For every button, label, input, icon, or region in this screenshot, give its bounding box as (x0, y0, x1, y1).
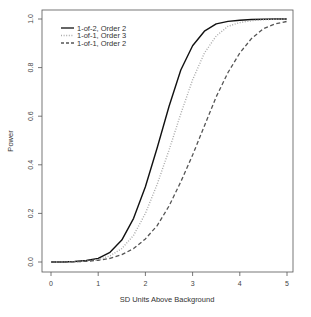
y-tick-label: 0.4 (27, 160, 34, 170)
y-tick-label: 1.0 (27, 14, 34, 24)
x-tick-label: 4 (238, 280, 242, 287)
legend-label: 1-of-1, Order 2 (77, 39, 126, 48)
x-tick-label: 3 (191, 280, 195, 287)
y-tick-label: 0.6 (27, 111, 34, 121)
y-tick-label: 0.2 (27, 208, 34, 218)
y-tick-label: 0.8 (27, 63, 34, 73)
x-tick-label: 2 (143, 280, 147, 287)
power-curve-chart: 012345 0.00.20.40.60.81.0 SD Units Above… (0, 0, 311, 317)
legend: 1-of-2, Order 2 1-of-1, Order 3 1-of-1, … (61, 24, 126, 48)
x-axis-title: SD Units Above Background (120, 295, 215, 304)
x-tick-label: 5 (285, 280, 289, 287)
series-line-solid (51, 19, 287, 262)
series-line-dashed (51, 21, 287, 262)
plot-frame (42, 10, 293, 272)
x-axis: 012345 (49, 272, 289, 287)
y-tick-label: 0.0 (27, 257, 34, 267)
x-tick-label: 1 (96, 280, 100, 287)
series-line-dotted (51, 19, 287, 262)
y-axis: 0.00.20.40.60.81.0 (27, 14, 42, 267)
y-axis-title: Power (6, 130, 15, 152)
series-group (51, 19, 287, 262)
x-tick-label: 0 (49, 280, 53, 287)
